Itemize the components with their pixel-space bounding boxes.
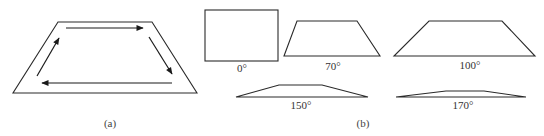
right-arrow-icon (149, 37, 172, 74)
outer-trapezoid (13, 22, 197, 93)
angle-label-170: 170° (453, 99, 474, 111)
shape-170-degree (396, 91, 526, 97)
angle-label-150: 150° (291, 99, 312, 111)
shape-0-degree (205, 10, 278, 61)
panel-a: (a) (13, 22, 197, 130)
panel-b-label: (b) (357, 117, 370, 130)
shape-100-degree (394, 21, 535, 56)
diagram-canvas: (a) 0° 70° 100° 150° 170° (b) (0, 0, 544, 136)
panel-b: 0° 70° 100° 150° 170° (b) (205, 10, 535, 130)
shape-70-degree (284, 21, 380, 56)
panel-a-label: (a) (104, 117, 117, 130)
angle-label-0: 0° (237, 62, 247, 74)
shape-150-degree (236, 85, 368, 97)
left-arrow-icon (37, 38, 59, 76)
angle-label-70: 70° (325, 60, 340, 72)
angle-label-100: 100° (460, 59, 481, 71)
